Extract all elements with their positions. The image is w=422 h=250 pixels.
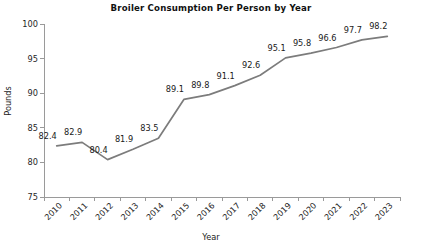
x-tick-label-2010: 2010 (42, 200, 64, 222)
x-tick-label-2021: 2021 (322, 200, 344, 222)
data-label-2018: 92.6 (242, 60, 260, 70)
y-axis: 7580859095100 (22, 19, 44, 202)
data-label-2021: 96.6 (318, 33, 336, 43)
y-tick-label: 85 (28, 123, 38, 133)
x-tick-label-2018: 2018 (246, 200, 268, 222)
y-tick-label: 95 (28, 54, 38, 64)
x-tick-label-2013: 2013 (119, 200, 141, 222)
x-tick-label-2011: 2011 (68, 200, 90, 222)
series-line (57, 36, 388, 159)
y-tick-label: 80 (28, 157, 38, 167)
chart-container: Broiler Consumption Per Person by Year P… (0, 0, 422, 250)
data-label-2011: 82.9 (64, 127, 82, 137)
data-label-2019: 95.1 (267, 43, 285, 53)
x-tick-label-2019: 2019 (271, 200, 293, 222)
data-label-2010: 82.4 (39, 131, 57, 141)
x-tick-label-2016: 2016 (195, 200, 217, 222)
plot-area: 7580859095100 20102011201220132014201520… (0, 0, 422, 250)
data-label-2015: 89.1 (166, 84, 184, 94)
y-tick-label: 90 (28, 88, 38, 98)
x-tick-label-2015: 2015 (169, 200, 191, 222)
data-label-2022: 97.7 (344, 25, 362, 35)
data-label-2020: 95.8 (293, 38, 311, 48)
data-label-2012: 80.4 (89, 145, 107, 155)
x-tick-label-2014: 2014 (144, 200, 166, 222)
x-axis: 2010201120122013201420152016201720182019… (42, 197, 400, 222)
x-tick-label-2020: 2020 (297, 200, 319, 222)
data-label-2023: 98.2 (369, 21, 387, 31)
y-tick-label: 100 (22, 19, 38, 29)
data-series-broiler-consumption (57, 36, 388, 159)
data-label-2014: 83.5 (140, 123, 158, 133)
data-label-2016: 89.8 (191, 80, 209, 90)
data-labels: 82.482.980.481.983.589.189.891.192.695.1… (39, 21, 388, 154)
x-tick-label-2017: 2017 (220, 200, 242, 222)
data-label-2017: 91.1 (217, 71, 235, 81)
x-tick-label-2023: 2023 (373, 200, 395, 222)
x-tick-label-2022: 2022 (347, 200, 369, 222)
y-tick-label: 75 (28, 192, 38, 202)
x-tick-label-2012: 2012 (93, 200, 115, 222)
data-label-2013: 81.9 (115, 134, 133, 144)
